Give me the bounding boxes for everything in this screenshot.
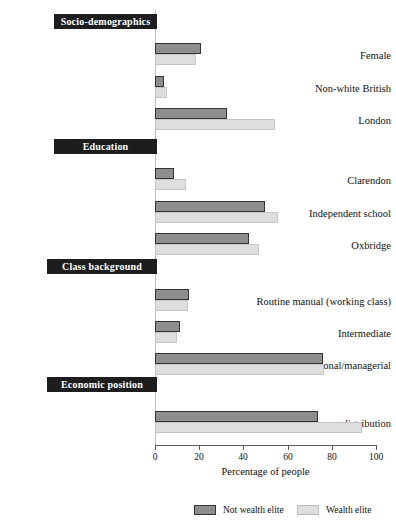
- bar-professional-managerial-not-wealth-elite: [155, 353, 323, 364]
- bar-oxbridge-wealth-elite: [155, 244, 259, 255]
- chart-legend: Not wealth elite Wealth elite: [0, 503, 396, 517]
- x-axis-line: [155, 445, 376, 446]
- section-header-socio-demographics: Socio-demographics: [54, 14, 157, 29]
- legend-item-wealth-elite: Wealth elite: [297, 503, 371, 517]
- row-label-intermediate: Intermediate: [246, 328, 396, 339]
- x-tick-label-80: 80: [327, 452, 337, 462]
- x-tick-100: [376, 445, 377, 450]
- bar-routine-manual-wealth-elite: [155, 300, 188, 311]
- x-tick-60: [288, 445, 289, 450]
- legend-label-not-wealth-elite: Not wealth elite: [223, 505, 284, 515]
- x-tick-label-0: 0: [153, 452, 158, 462]
- bar-london-not-wealth-elite: [155, 108, 227, 119]
- x-tick-label-40: 40: [238, 452, 248, 462]
- bar-oxbridge-not-wealth-elite: [155, 233, 249, 244]
- x-tick-0: [155, 445, 156, 450]
- bar-independent-school-wealth-elite: [155, 212, 278, 223]
- section-header-economic-position: Economic position: [47, 377, 157, 392]
- section-header-label: Education: [83, 141, 129, 152]
- bar-intermediate-not-wealth-elite: [155, 321, 180, 332]
- bar-chart: Socio-demographics Education Class backg…: [0, 0, 396, 530]
- bar-professional-managerial-wealth-elite: [155, 364, 324, 375]
- legend-swatch-wealth-elite: [297, 505, 319, 515]
- x-tick-20: [199, 445, 200, 450]
- legend-label-wealth-elite: Wealth elite: [326, 505, 371, 515]
- bar-top-10-income-not-wealth-elite: [155, 411, 318, 422]
- bar-female-not-wealth-elite: [155, 43, 201, 54]
- bar-london-wealth-elite: [155, 119, 275, 130]
- row-label-routine-manual: Routine manual (working class): [246, 296, 396, 307]
- x-tick-label-100: 100: [369, 452, 383, 462]
- bar-independent-school-not-wealth-elite: [155, 201, 265, 212]
- bar-non-white-british-wealth-elite: [155, 87, 167, 98]
- row-label-oxbridge: Oxbridge: [246, 240, 396, 251]
- section-header-label: Economic position: [61, 379, 143, 390]
- section-header-education: Education: [54, 139, 157, 154]
- section-header-class-background: Class background: [47, 259, 157, 274]
- bar-routine-manual-not-wealth-elite: [155, 289, 189, 300]
- x-tick-label-20: 20: [194, 452, 204, 462]
- legend-item-not-wealth-elite: Not wealth elite: [194, 503, 284, 517]
- row-label-female: Female: [246, 50, 396, 61]
- row-label-clarendon: Clarendon: [246, 175, 396, 186]
- bar-top-10-income-wealth-elite: [155, 422, 362, 433]
- x-tick-80: [332, 445, 333, 450]
- section-header-label: Socio-demographics: [61, 16, 151, 27]
- legend-swatch-not-wealth-elite: [194, 505, 216, 515]
- x-tick-40: [243, 445, 244, 450]
- bar-clarendon-not-wealth-elite: [155, 168, 174, 179]
- x-axis-title: Percentage of people: [155, 466, 376, 477]
- x-tick-label-60: 60: [283, 452, 293, 462]
- section-header-label: Class background: [62, 261, 142, 272]
- row-label-non-white-british: Non-white British: [246, 83, 396, 94]
- bar-clarendon-wealth-elite: [155, 179, 186, 190]
- bar-female-wealth-elite: [155, 54, 196, 65]
- bar-non-white-british-not-wealth-elite: [155, 76, 164, 87]
- bar-intermediate-wealth-elite: [155, 332, 177, 343]
